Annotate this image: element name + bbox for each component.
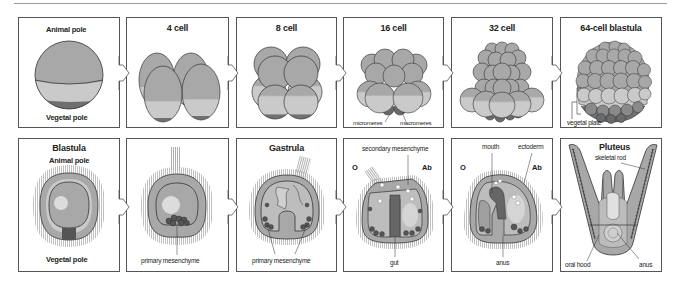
arrow-right-icon bbox=[224, 190, 240, 224]
arrow-right-icon bbox=[115, 56, 131, 90]
panel-pluteus: Pluteus skeletal rod oral hood anus bbox=[560, 138, 662, 272]
arrow-right-icon bbox=[332, 56, 348, 90]
stage-title-pluteus: Pluteus bbox=[599, 142, 630, 152]
label-anus: anus bbox=[496, 259, 509, 266]
label-vegetal-pole: Vegetal pole bbox=[46, 113, 87, 122]
arrow-right-icon bbox=[332, 190, 348, 224]
arrow-right-icon bbox=[439, 190, 455, 224]
arrow-right-icon bbox=[548, 190, 564, 224]
label-skeletal-rod: skeletal rod bbox=[595, 154, 626, 161]
label-vegetal-pole: Vegetal pole bbox=[46, 255, 87, 264]
panel-16-cell: 16 cell micromeres macromeres bbox=[343, 17, 444, 128]
64-cell-illustration bbox=[561, 18, 663, 129]
top-rule bbox=[14, 3, 667, 4]
panel-gastrula: Gastrula primary mesenchyme bbox=[236, 138, 337, 272]
gastrula-illustration bbox=[237, 139, 338, 273]
arrow-right-icon bbox=[115, 190, 131, 224]
panel-8-cell: 8 cell bbox=[236, 17, 337, 128]
label-oral-hood: oral hood bbox=[565, 261, 590, 268]
label-vegetal-plate: vegetal plate bbox=[567, 119, 601, 126]
ingression-illustration bbox=[127, 139, 230, 273]
panel-egg: Animal pole Vegetal pole bbox=[18, 17, 120, 128]
blastula-illustration bbox=[19, 139, 121, 273]
label-primary-mesenchyme: primary mesenchyme bbox=[141, 257, 200, 264]
label-macromeres: macromeres bbox=[400, 120, 431, 126]
arrow-right-icon bbox=[439, 56, 455, 90]
8-cell-illustration bbox=[237, 18, 338, 129]
label-anus: anus bbox=[639, 261, 652, 268]
arrow-right-icon bbox=[548, 56, 564, 90]
panel-64-cell-blastula: 64-cell blastula vegetal plate bbox=[560, 17, 662, 128]
label-micromeres: micromeres bbox=[353, 120, 382, 126]
32-cell-illustration bbox=[452, 18, 554, 129]
label-gut: gut bbox=[390, 259, 398, 266]
panel-prism: secondary mesenchyme O Ab gut bbox=[343, 138, 444, 272]
16-cell-illustration bbox=[344, 18, 445, 129]
arrow-right-icon bbox=[224, 56, 240, 90]
panel-early-larva: mouth ectoderm O Ab anus bbox=[451, 138, 553, 272]
prism-illustration bbox=[344, 139, 445, 273]
panel-blastula: Blastula Animal pole Vegetal pole bbox=[18, 138, 120, 272]
panel-ingression: primary mesenchyme bbox=[126, 138, 229, 272]
panel-32-cell: 32 cell bbox=[451, 17, 553, 128]
panel-4-cell: 4 cell bbox=[126, 17, 229, 128]
4-cell-illustration bbox=[127, 18, 230, 129]
early-larva-illustration bbox=[452, 139, 554, 273]
label-primary-mesenchyme: primary mesenchyme bbox=[252, 257, 311, 264]
